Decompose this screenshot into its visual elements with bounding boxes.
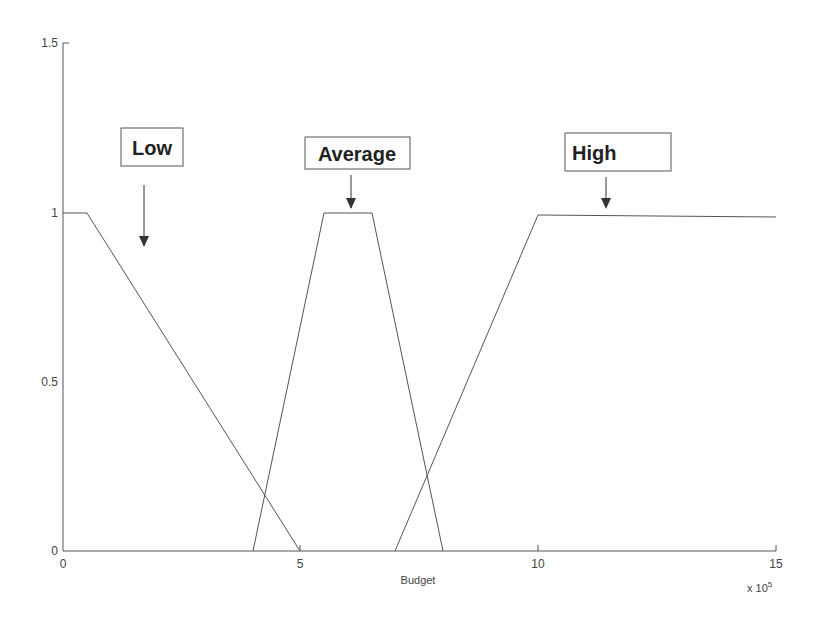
y-tick-0.5: 0.5 <box>41 375 58 389</box>
average-label: Average <box>318 143 396 165</box>
high-label: High <box>572 142 616 164</box>
x-axis-label: Budget <box>401 574 436 586</box>
y-tick-0: 0 <box>51 544 58 558</box>
x-tick-0: 0 <box>60 557 67 571</box>
series-low <box>63 213 300 551</box>
y-tick-1: 1 <box>51 206 58 220</box>
x-tick-15: 15 <box>769 557 783 571</box>
membership-chart: 1.5 1 0.5 0 0 5 10 15 Budget x 105 Low A… <box>0 0 821 629</box>
x-tick-5: 5 <box>297 557 304 571</box>
series-average <box>253 213 443 551</box>
series-high <box>395 215 776 551</box>
x-multiplier: x 105 <box>747 580 773 594</box>
low-label: Low <box>132 137 172 159</box>
y-tick-1.5: 1.5 <box>41 36 58 50</box>
x-tick-10: 10 <box>531 557 545 571</box>
